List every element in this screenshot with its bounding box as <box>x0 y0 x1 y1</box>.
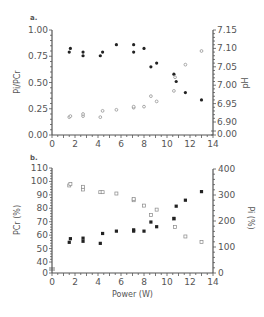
x-tick-label: 6 <box>118 277 124 287</box>
x-tick-label: 8 <box>141 277 147 287</box>
y2-tick-label: 100 <box>218 242 235 252</box>
data-point-open <box>99 116 102 119</box>
data-point-filled <box>115 43 118 46</box>
data-point-filled <box>69 237 72 240</box>
y-tick-label: 0 <box>42 268 48 278</box>
data-point-open <box>174 226 177 229</box>
data-point-open <box>155 208 158 211</box>
y-tick-label: 50 <box>37 244 49 254</box>
data-point-open <box>200 240 203 243</box>
data-point-filled <box>200 190 203 193</box>
data-point-filled <box>184 199 187 202</box>
y-tick-label: 70 <box>37 217 49 227</box>
x-tick-label: 2 <box>72 277 78 287</box>
figure: a.0.000.250.500.751.00Pi/PCr0.006.906.95… <box>0 0 264 317</box>
chart-panel-b: b.0405060708090100110PCr (%)010020030040… <box>13 154 255 299</box>
y-axis-title-right: Pi (%) <box>246 206 255 229</box>
x-tick-label: 4 <box>95 139 101 149</box>
data-point-filled <box>142 230 145 233</box>
data-point-filled <box>142 47 145 50</box>
data-point-filled <box>101 50 104 53</box>
x-tick-label: 12 <box>184 139 195 149</box>
y2-tick-label: 6.95 <box>217 99 237 109</box>
x-tick-label: 0 <box>49 277 55 287</box>
data-point-open <box>115 108 118 111</box>
y2-tick-label: 0 <box>218 268 224 278</box>
data-point-filled <box>115 230 118 233</box>
data-point-filled <box>69 47 72 50</box>
y-tick-label: 0.50 <box>28 78 48 88</box>
y2-tick-label: 7.00 <box>217 80 237 90</box>
x-tick-label: 0 <box>49 139 55 149</box>
y-tick-label: 110 <box>31 163 48 173</box>
data-point-open <box>143 204 146 207</box>
data-point-open <box>155 100 158 103</box>
panel-label-a: a. <box>30 14 37 22</box>
data-point-filled <box>81 237 84 240</box>
y2-tick-label: 400 <box>218 164 235 174</box>
y-tick-label: 0.75 <box>28 51 48 61</box>
data-point-open <box>174 76 177 79</box>
x-tick-label: 6 <box>118 139 124 149</box>
data-point-open <box>132 105 135 108</box>
data-point-filled <box>175 205 178 208</box>
data-point-open <box>173 90 176 93</box>
data-point-open <box>143 105 146 108</box>
data-point-filled <box>132 228 135 231</box>
data-point-open <box>200 50 203 53</box>
y2-tick-label: 300 <box>218 190 235 200</box>
data-point-open <box>149 214 152 217</box>
data-point-filled <box>149 65 152 68</box>
data-point-filled <box>81 54 84 57</box>
x-tick-label: 4 <box>95 277 101 287</box>
data-point-filled <box>172 217 175 220</box>
data-point-open <box>184 63 187 66</box>
data-point-open <box>101 109 104 112</box>
data-point-filled <box>172 73 175 76</box>
data-point-filled <box>99 242 102 245</box>
y2-tick-label: 6.90 <box>217 117 237 127</box>
data-point-open <box>82 185 85 188</box>
data-point-filled <box>184 91 187 94</box>
y-tick-label: 1.00 <box>28 25 48 35</box>
x-tick-label: 10 <box>161 139 173 149</box>
data-point-filled <box>175 80 178 83</box>
y-tick-label: 80 <box>37 203 49 213</box>
x-tick-label: 14 <box>207 277 219 287</box>
y2-tick-label: 200 <box>218 216 235 226</box>
data-point-filled <box>68 50 71 53</box>
data-point-filled <box>68 241 71 244</box>
x-axis-title: Power (W) <box>112 290 153 299</box>
y-axis-title-left: Pi/PCr <box>13 70 22 94</box>
x-tick-label: 2 <box>72 139 78 149</box>
data-point-filled <box>155 225 158 228</box>
y2-tick-label: 7.05 <box>217 62 237 72</box>
data-point-open <box>82 113 85 116</box>
data-point-filled <box>99 54 102 57</box>
y2-tick-label: 7.10 <box>217 43 237 53</box>
x-tick-label: 14 <box>207 139 219 149</box>
y-tick-label: 0.25 <box>28 104 48 114</box>
y-axis-title-left: PCr (%) <box>13 205 22 235</box>
y-tick-label: 90 <box>37 190 49 200</box>
data-point-filled <box>81 50 84 53</box>
y-tick-label: 100 <box>31 176 48 186</box>
y-tick-label: 40 <box>37 257 49 267</box>
data-point-open <box>69 115 72 118</box>
data-point-filled <box>101 232 104 235</box>
y-axis-title-right: pH <box>241 77 250 88</box>
data-point-open <box>150 95 153 98</box>
data-point-open <box>115 192 118 195</box>
y2-tick-label: 0.00 <box>217 129 237 139</box>
data-point-filled <box>81 240 84 243</box>
data-point-filled <box>149 220 152 223</box>
data-point-open <box>69 183 72 186</box>
y-tick-label: 60 <box>37 230 49 240</box>
chart-panel-a: a.0.000.250.500.751.00Pi/PCr0.006.906.95… <box>13 14 250 149</box>
x-tick-label: 10 <box>161 277 173 287</box>
data-point-filled <box>132 50 135 53</box>
panel-label-b: b. <box>30 154 38 162</box>
x-tick-label: 8 <box>141 139 147 149</box>
data-point-open <box>132 197 135 200</box>
data-point-filled <box>132 43 135 46</box>
